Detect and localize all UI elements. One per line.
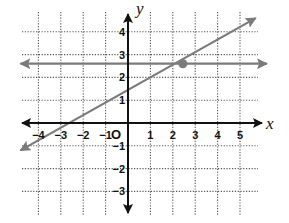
x-tick-label: 4 [215, 129, 222, 141]
y-tick-label: −1 [112, 140, 125, 152]
grid [22, 12, 258, 215]
x-axis-label: x [265, 114, 274, 133]
intersection-point [178, 59, 187, 68]
x-tick-label: 2 [170, 129, 176, 141]
y-tick-label: −3 [112, 185, 125, 197]
y-axis-label: y [134, 0, 144, 18]
x-tick-label: −2 [77, 129, 90, 141]
x-tick-label: −1 [99, 129, 112, 141]
y-tick-label: 1 [119, 94, 125, 106]
x-tick-label: 1 [147, 129, 153, 141]
y-tick-label: 3 [119, 49, 125, 61]
tick-labels: xyO−4−3−2−112345−3−2−11234 [32, 0, 274, 197]
axes [22, 14, 262, 213]
y-tick-label: −2 [112, 163, 125, 175]
y-tick-label: 4 [119, 26, 126, 38]
x-tick-label: −3 [55, 129, 68, 141]
y-tick-label: 2 [119, 71, 125, 83]
x-tick-label: 5 [237, 129, 243, 141]
x-tick-label: −4 [32, 129, 45, 141]
coordinate-plane: xyO−4−3−2−112345−3−2−11234 [0, 0, 289, 223]
x-tick-label: 3 [192, 129, 198, 141]
